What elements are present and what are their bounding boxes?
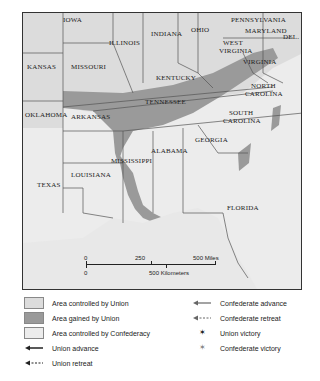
civil-war-map: IOWA ILLINOIS INDIANA OHIO PENNSYLVANIA … <box>22 12 302 290</box>
dashed-arrow-gray-icon <box>192 312 212 324</box>
state-label-north-carolina-2: CAROLINA <box>245 90 283 98</box>
state-label-kansas: KANSAS <box>27 63 56 71</box>
solid-arrow-gray-icon <box>192 297 212 309</box>
state-label-alabama: ALABAMA <box>151 147 188 155</box>
legend-label: Confederate victory <box>220 345 281 352</box>
state-label-ohio: OHIO <box>191 26 209 34</box>
legend-label: Union retreat <box>52 360 92 367</box>
star-gray-icon: ✶ <box>192 342 212 354</box>
state-label-south-carolina: SOUTH <box>229 109 253 117</box>
legend-label: Area controlled by Union <box>52 300 129 307</box>
scale-miles-mid: 250 <box>135 255 145 261</box>
state-label-illinois: ILLINOIS <box>109 39 140 47</box>
scale-km-end: 500 Kilometers <box>149 270 189 276</box>
dashed-arrow-icon <box>24 357 44 369</box>
legend-label: Area controlled by Confederacy <box>52 330 150 337</box>
legend-union-retreat: Union retreat <box>24 356 92 370</box>
legend-union-victory: ✶ Union victory <box>192 326 260 340</box>
legend-union-gained: Area gained by Union <box>24 311 119 325</box>
legend-confederate-advance: Confederate advance <box>192 296 287 310</box>
state-label-indiana: INDIANA <box>151 30 182 38</box>
legend-label: Union advance <box>52 345 99 352</box>
star-dark-icon: ✶ <box>192 327 212 339</box>
union-area-swatch <box>24 297 44 309</box>
confederacy-area-swatch <box>24 327 44 339</box>
state-label-south-carolina-2: CAROLINA <box>223 117 261 125</box>
state-label-pennsylvania: PENNSYLVANIA <box>231 16 286 24</box>
state-label-arkansas: ARKANSAS <box>71 113 110 121</box>
legend-label: Confederate retreat <box>220 315 281 322</box>
state-label-west-virginia-2: VIRGINIA <box>219 47 252 55</box>
state-label-tennessee: TENNESSEE <box>145 98 186 106</box>
state-label-delaware: DEL. <box>283 33 299 41</box>
legend-confederate-victory: ✶ Confederate victory <box>192 341 281 355</box>
state-label-mississippi: MISSISSIPPI <box>111 157 152 165</box>
state-label-georgia: GEORGIA <box>195 136 228 144</box>
state-label-florida: FLORIDA <box>227 204 259 212</box>
solid-arrow-icon <box>24 342 44 354</box>
state-label-virginia: VIRGINIA <box>243 58 276 66</box>
state-label-oklahoma: OKLAHOMA <box>25 111 67 119</box>
legend-label: Confederate advance <box>220 300 287 307</box>
gained-area-swatch <box>24 312 44 324</box>
map-legend: Area controlled by Union Area gained by … <box>24 296 314 376</box>
state-label-louisiana: LOUISIANA <box>71 171 111 179</box>
state-label-west-virginia: WEST <box>223 39 243 47</box>
state-label-maryland: MARYLAND <box>245 27 287 35</box>
legend-confederacy-controlled: Area controlled by Confederacy <box>24 326 150 340</box>
state-label-texas: TEXAS <box>37 181 61 189</box>
state-label-north-carolina: NORTH <box>251 82 276 90</box>
scale-km-zero: 0 <box>84 270 87 276</box>
state-label-kentucky: KENTUCKY <box>156 74 196 82</box>
state-label-iowa: IOWA <box>63 16 82 24</box>
legend-confederate-retreat: Confederate retreat <box>192 311 281 325</box>
state-label-missouri: MISSOURI <box>71 63 106 71</box>
legend-union-controlled: Area controlled by Union <box>24 296 129 310</box>
legend-union-advance: Union advance <box>24 341 99 355</box>
legend-label: Union victory <box>220 330 260 337</box>
legend-label: Area gained by Union <box>52 315 119 322</box>
